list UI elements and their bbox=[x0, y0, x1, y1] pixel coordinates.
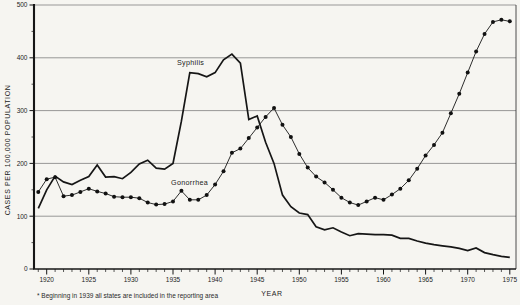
gonorrhea-point-1949 bbox=[289, 135, 293, 139]
syphilis-line bbox=[38, 54, 510, 257]
gonorrhea-point-1966 bbox=[432, 143, 436, 147]
gonorrhea-point-1946 bbox=[264, 115, 268, 119]
gonorrhea-point-1963 bbox=[407, 178, 411, 182]
gonorrhea-point-1960 bbox=[382, 198, 386, 202]
gonorrhea-point-1921 bbox=[53, 175, 57, 179]
series-label-gonorrhea: Gonorrhea bbox=[171, 178, 208, 187]
gonorrhea-point-1947 bbox=[272, 106, 276, 110]
x-tick-label-1960: 1960 bbox=[376, 276, 391, 283]
y-tick-label-300: 300 bbox=[17, 107, 28, 114]
gonorrhea-point-1959 bbox=[373, 196, 377, 200]
gonorrhea-point-1961 bbox=[390, 193, 394, 197]
gonorrhea-point-1920 bbox=[45, 177, 49, 181]
gonorrhea-point-1948 bbox=[280, 123, 284, 127]
gonorrhea-point-1931 bbox=[137, 196, 141, 200]
x-tick-label-1945: 1945 bbox=[250, 276, 265, 283]
chart-svg: 0100200300400500192019251930193519401945… bbox=[0, 0, 520, 305]
gonorrhea-point-1971 bbox=[474, 49, 478, 53]
series-label-syphilis: Syphilis bbox=[177, 58, 204, 67]
x-tick-label-1975: 1975 bbox=[503, 276, 518, 283]
gonorrhea-point-1938 bbox=[196, 198, 200, 202]
gonorrhea-point-1935 bbox=[171, 199, 175, 203]
gonorrhea-point-1929 bbox=[120, 195, 124, 199]
gonorrhea-point-1940 bbox=[213, 183, 217, 187]
gonorrhea-point-1930 bbox=[129, 195, 133, 199]
chart-figure: 0100200300400500192019251930193519401945… bbox=[0, 0, 520, 305]
x-tick-label-1940: 1940 bbox=[208, 276, 223, 283]
gonorrhea-point-1944 bbox=[247, 136, 251, 140]
gonorrhea-point-1936 bbox=[179, 189, 183, 193]
gonorrhea-point-1957 bbox=[356, 203, 360, 207]
chart-footnote: * Beginning in 1939 all states are inclu… bbox=[37, 292, 218, 300]
gonorrhea-point-1919 bbox=[36, 190, 40, 194]
gonorrhea-point-1962 bbox=[398, 187, 402, 191]
gonorrhea-point-1943 bbox=[238, 147, 242, 151]
gonorrhea-point-1972 bbox=[483, 32, 487, 36]
y-tick-label-200: 200 bbox=[17, 160, 28, 167]
gonorrhea-point-1956 bbox=[348, 200, 352, 204]
gonorrhea-point-1967 bbox=[440, 131, 444, 135]
gonorrhea-point-1951 bbox=[306, 166, 310, 170]
gonorrhea-point-1964 bbox=[415, 167, 419, 171]
gonorrhea-point-1965 bbox=[424, 153, 428, 157]
gonorrhea-point-1950 bbox=[297, 152, 301, 156]
y-axis-title: CASES PER 100,000 POPULATION bbox=[4, 85, 11, 216]
x-tick-label-1970: 1970 bbox=[460, 276, 475, 283]
gonorrhea-point-1973 bbox=[491, 20, 495, 24]
gonorrhea-point-1923 bbox=[70, 193, 74, 197]
y-tick-label-500: 500 bbox=[17, 1, 28, 8]
gonorrhea-point-1945 bbox=[255, 125, 259, 129]
gonorrhea-point-1969 bbox=[457, 92, 461, 96]
gonorrhea-point-1975 bbox=[508, 19, 512, 23]
gonorrhea-point-1941 bbox=[222, 169, 226, 173]
gonorrhea-point-1932 bbox=[146, 200, 150, 204]
gonorrhea-point-1953 bbox=[323, 180, 327, 184]
y-tick-label-400: 400 bbox=[17, 54, 28, 61]
chart-root: 0100200300400500192019251930193519401945… bbox=[17, 1, 518, 282]
y-tick-label-100: 100 bbox=[17, 213, 28, 220]
x-axis-title: YEAR bbox=[261, 290, 282, 297]
gonorrhea-point-1933 bbox=[154, 203, 158, 207]
gonorrhea-point-1927 bbox=[104, 191, 108, 195]
gonorrhea-point-1958 bbox=[365, 199, 369, 203]
gonorrhea-point-1925 bbox=[87, 187, 91, 191]
gonorrhea-point-1934 bbox=[163, 202, 167, 206]
gonorrhea-point-1954 bbox=[331, 188, 335, 192]
gonorrhea-point-1955 bbox=[339, 196, 343, 200]
x-tick-label-1930: 1930 bbox=[124, 276, 139, 283]
x-tick-label-1955: 1955 bbox=[334, 276, 349, 283]
gonorrhea-point-1942 bbox=[230, 151, 234, 155]
gonorrhea-point-1974 bbox=[499, 18, 503, 22]
gonorrhea-point-1970 bbox=[466, 71, 470, 75]
x-tick-label-1935: 1935 bbox=[166, 276, 181, 283]
x-tick-label-1950: 1950 bbox=[292, 276, 307, 283]
x-tick-label-1965: 1965 bbox=[418, 276, 433, 283]
gonorrhea-point-1952 bbox=[314, 175, 318, 179]
x-tick-label-1925: 1925 bbox=[82, 276, 97, 283]
gonorrhea-point-1968 bbox=[449, 111, 453, 115]
gonorrhea-point-1928 bbox=[112, 195, 116, 199]
gonorrhea-point-1937 bbox=[188, 198, 192, 202]
gonorrhea-point-1926 bbox=[95, 189, 99, 193]
x-tick-label-1920: 1920 bbox=[39, 276, 54, 283]
gonorrhea-point-1922 bbox=[62, 194, 66, 198]
gonorrhea-point-1924 bbox=[78, 190, 82, 194]
gonorrhea-point-1939 bbox=[205, 193, 209, 197]
y-tick-label-0: 0 bbox=[24, 265, 28, 272]
